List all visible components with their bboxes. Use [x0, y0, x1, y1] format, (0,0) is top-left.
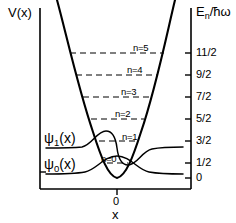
tick-label-3-2: 3/2 — [196, 135, 211, 146]
level-label-n1: n=1 — [122, 132, 137, 142]
level-label-n3: n=3 — [121, 87, 136, 97]
tick-label-9-2: 9/2 — [196, 69, 211, 80]
tick-label-0: 0 — [196, 172, 202, 183]
psi1-argument: (x) — [59, 130, 75, 146]
y-axis-title: V(x) — [8, 6, 32, 19]
tick-label-5-2: 5/2 — [196, 113, 211, 124]
wavefunction-label-psi1: ψ1(x) — [44, 131, 76, 147]
harmonic-oscillator-figure: V(x) En/ħω 11/2 9/2 7/2 5/2 3/2 1/2 0 n=… — [0, 0, 236, 223]
x-axis-title: x — [112, 208, 119, 221]
level-label-n0: n=0 — [101, 154, 116, 164]
y2-axis-title-E: E — [196, 4, 205, 19]
y2-axis-title: En/ħω — [196, 5, 231, 21]
tick-label-11-2: 11/2 — [196, 47, 217, 58]
psi0-symbol: ψ — [44, 156, 54, 172]
potential-curve — [57, 0, 175, 178]
tick-label-7-2: 7/2 — [196, 91, 211, 102]
level-label-n4: n=4 — [127, 65, 142, 75]
y2-axis-title-rest: /ħω — [210, 4, 231, 19]
tick-label-1-2: 1/2 — [196, 157, 211, 168]
wavefunction-label-psi0: ψ0(x) — [44, 157, 76, 173]
level-label-n5: n=5 — [133, 43, 148, 53]
psi1-symbol: ψ — [44, 130, 54, 146]
level-label-n2: n=2 — [115, 109, 130, 119]
x-origin-label: 0 — [113, 196, 119, 207]
psi0-argument: (x) — [59, 156, 75, 172]
